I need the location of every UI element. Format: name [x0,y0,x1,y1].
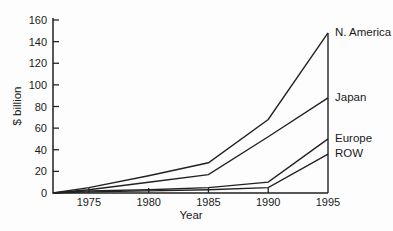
y-tick-label: 100 [29,79,47,91]
x-axis-title: Year [179,209,202,221]
series-label: N. America [335,26,392,38]
x-tick-label: 1985 [196,196,220,208]
x-tick-label: 1980 [136,196,160,208]
x-tick-label: 1975 [77,196,101,208]
y-axis-title: $ billion [11,87,23,126]
series-label: ROW [335,147,363,159]
series-line [53,98,328,193]
y-tick-label: 0 [41,187,47,199]
y-tick-label: 40 [35,144,47,156]
y-tick-label: 160 [29,14,47,26]
series-label: Europe [335,132,372,144]
chart-generated-layer: 0204060801001201401601975198019851990199… [29,14,392,208]
chart-figure: 0204060801001201401601975198019851990199… [0,0,393,231]
line-chart: 0204060801001201401601975198019851990199… [0,0,393,231]
y-tick-label: 120 [29,57,47,69]
y-tick-label: 60 [35,122,47,134]
y-tick-label: 20 [35,165,47,177]
x-tick-label: 1995 [316,196,340,208]
series-label: Japan [335,91,366,103]
y-tick-label: 140 [29,36,47,48]
y-tick-label: 80 [35,101,47,113]
x-tick-label: 1990 [256,196,280,208]
